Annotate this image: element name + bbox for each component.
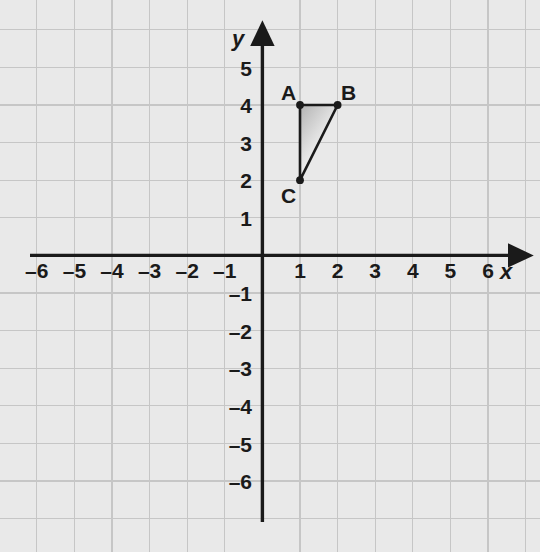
x-tick-label-minus6: –6 xyxy=(17,260,57,281)
vertex-point-a xyxy=(296,101,304,109)
x-axis-label: x xyxy=(500,261,512,283)
y-tick-label-3: 3 xyxy=(204,133,252,154)
y-tick-label-minus3: –3 xyxy=(196,358,252,379)
x-tick-label-1: 1 xyxy=(280,260,320,281)
y-tick-label-minus6: –6 xyxy=(196,471,252,492)
x-tick-label-minus2: –2 xyxy=(167,260,207,281)
x-tick-label-minus4: –4 xyxy=(92,260,132,281)
x-tick-label-3: 3 xyxy=(355,260,395,281)
x-tick-label-5: 5 xyxy=(430,260,470,281)
y-tick-label-1: 1 xyxy=(204,208,252,229)
vertex-label-a: A xyxy=(281,82,296,103)
y-tick-label-5: 5 xyxy=(204,58,252,79)
vertex-label-b: B xyxy=(341,82,356,103)
y-tick-label-minus4: –4 xyxy=(196,396,252,417)
vertex-label-c: C xyxy=(281,185,296,206)
x-tick-label-4: 4 xyxy=(393,260,433,281)
x-tick-label-2: 2 xyxy=(318,260,358,281)
y-tick-label-4: 4 xyxy=(204,95,252,116)
x-tick-label-minus1: –1 xyxy=(205,260,245,281)
y-tick-label-minus1: –1 xyxy=(196,283,252,304)
y-tick-label-minus5: –5 xyxy=(196,434,252,455)
coordinate-plane-figure: –6 –5 –4 –3 –2 –1 1 2 3 4 5 6 5 4 3 2 1 … xyxy=(0,0,540,552)
y-tick-label-minus2: –2 xyxy=(196,321,252,342)
x-tick-label-minus3: –3 xyxy=(130,260,170,281)
vertex-point-c xyxy=(296,176,304,184)
y-axis-label: y xyxy=(232,28,244,50)
y-tick-label-2: 2 xyxy=(204,170,252,191)
x-tick-label-minus5: –5 xyxy=(54,260,94,281)
